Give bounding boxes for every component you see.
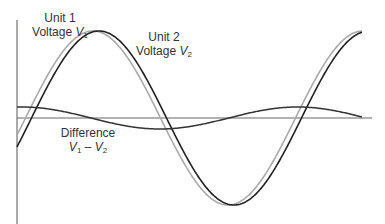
difference-label: Difference V1 – V2 — [48, 126, 128, 158]
unit1-label: Unit 1 Voltage V1 — [20, 11, 100, 43]
unit2-label: Unit 2 Voltage V2 — [124, 30, 204, 62]
